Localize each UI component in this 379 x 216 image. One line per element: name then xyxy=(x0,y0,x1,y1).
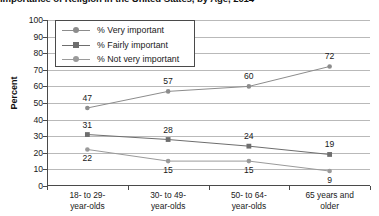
x-axis-tick-label-line: year-olds xyxy=(209,201,290,212)
series-marker xyxy=(327,169,332,174)
y-axis-tick-label: 20 xyxy=(21,149,43,158)
data-point-label: 24 xyxy=(236,132,262,141)
x-axis-tick-label-line: 18- to 29- xyxy=(47,190,128,201)
data-point-label: 22 xyxy=(74,154,100,163)
y-axis-tick-label: 70 xyxy=(21,66,43,75)
data-point-label: 15 xyxy=(236,166,262,175)
y-axis-tick-label: 60 xyxy=(21,82,43,91)
x-axis-tick-label: 65 years andolder xyxy=(289,190,370,211)
series-marker xyxy=(85,106,90,111)
chart-figure: Importance of Religion in the United Sta… xyxy=(0,0,379,216)
y-axis-tick-label: 80 xyxy=(21,49,43,58)
data-point-label: 72 xyxy=(317,52,343,61)
legend-item[interactable]: % Very important xyxy=(56,23,196,38)
data-point-label: 57 xyxy=(155,77,181,86)
legend-item-label: % Not very important xyxy=(97,53,179,66)
series-line xyxy=(87,66,329,108)
data-point-label: 60 xyxy=(236,72,262,81)
x-axis-tick-label: 18- to 29-year-olds xyxy=(47,190,128,211)
data-point-label: 19 xyxy=(317,140,343,149)
legend-marker-icon xyxy=(73,27,79,33)
y-axis-tick-label: 90 xyxy=(21,33,43,42)
series-marker xyxy=(85,147,90,152)
x-axis-tick-label: 50- to 64-year-olds xyxy=(209,190,290,211)
legend-marker-icon xyxy=(73,42,79,48)
series-marker xyxy=(85,132,90,137)
y-axis-tick-labels: 1009080706050403020100 xyxy=(19,20,43,186)
plot-area: 47576072312824192215159 % Very important… xyxy=(47,20,370,186)
y-axis-tick-label: 0 xyxy=(21,182,43,191)
legend-item[interactable]: % Fairly important xyxy=(56,38,196,53)
chart-legend: % Very important% Fairly important% Not … xyxy=(55,20,195,67)
legend-item-label: % Very important xyxy=(97,24,164,37)
legend-item-label: % Fairly important xyxy=(97,39,168,52)
legend-marker-icon xyxy=(73,56,79,62)
x-axis-tick-label-line: 50- to 64- xyxy=(209,190,290,201)
series-marker xyxy=(166,159,171,164)
x-axis-tick-label-line: older xyxy=(289,201,370,212)
x-axis-tick-label-line: 65 years and xyxy=(289,190,370,201)
data-point-label: 31 xyxy=(74,121,100,130)
series-marker xyxy=(247,159,252,164)
y-axis-tick-label: 50 xyxy=(21,99,43,108)
x-axis-tick-label: 30- to 49-year-olds xyxy=(128,190,209,211)
x-axis-tick-labels: 18- to 29-year-olds30- to 49-year-olds50… xyxy=(47,190,370,216)
x-axis-tick-label-line: 30- to 49- xyxy=(128,190,209,201)
x-axis-tick-label-line: year-olds xyxy=(128,201,209,212)
y-axis-tick-label: 40 xyxy=(21,116,43,125)
series-marker xyxy=(327,152,332,157)
y-axis-tick-label: 30 xyxy=(21,132,43,141)
legend-item[interactable]: % Not very important xyxy=(56,52,196,67)
y-axis-title: Percent xyxy=(9,63,19,123)
series-marker xyxy=(327,64,332,69)
series-marker xyxy=(166,89,171,94)
y-axis-tick-label: 10 xyxy=(21,165,43,174)
series-marker xyxy=(246,144,251,149)
data-point-label: 28 xyxy=(155,126,181,135)
data-point-label: 15 xyxy=(155,166,181,175)
data-point-label: 9 xyxy=(317,176,343,185)
chart-title: Importance of Religion in the United Sta… xyxy=(0,0,379,7)
x-axis-tick-label-line: year-olds xyxy=(47,201,128,212)
series-line xyxy=(87,135,329,155)
data-point-label: 47 xyxy=(74,94,100,103)
x-axis-tick xyxy=(370,186,371,190)
y-axis-tick-label: 100 xyxy=(21,16,43,25)
series-marker xyxy=(166,137,171,142)
series-marker xyxy=(247,84,252,89)
series-line xyxy=(87,149,329,171)
